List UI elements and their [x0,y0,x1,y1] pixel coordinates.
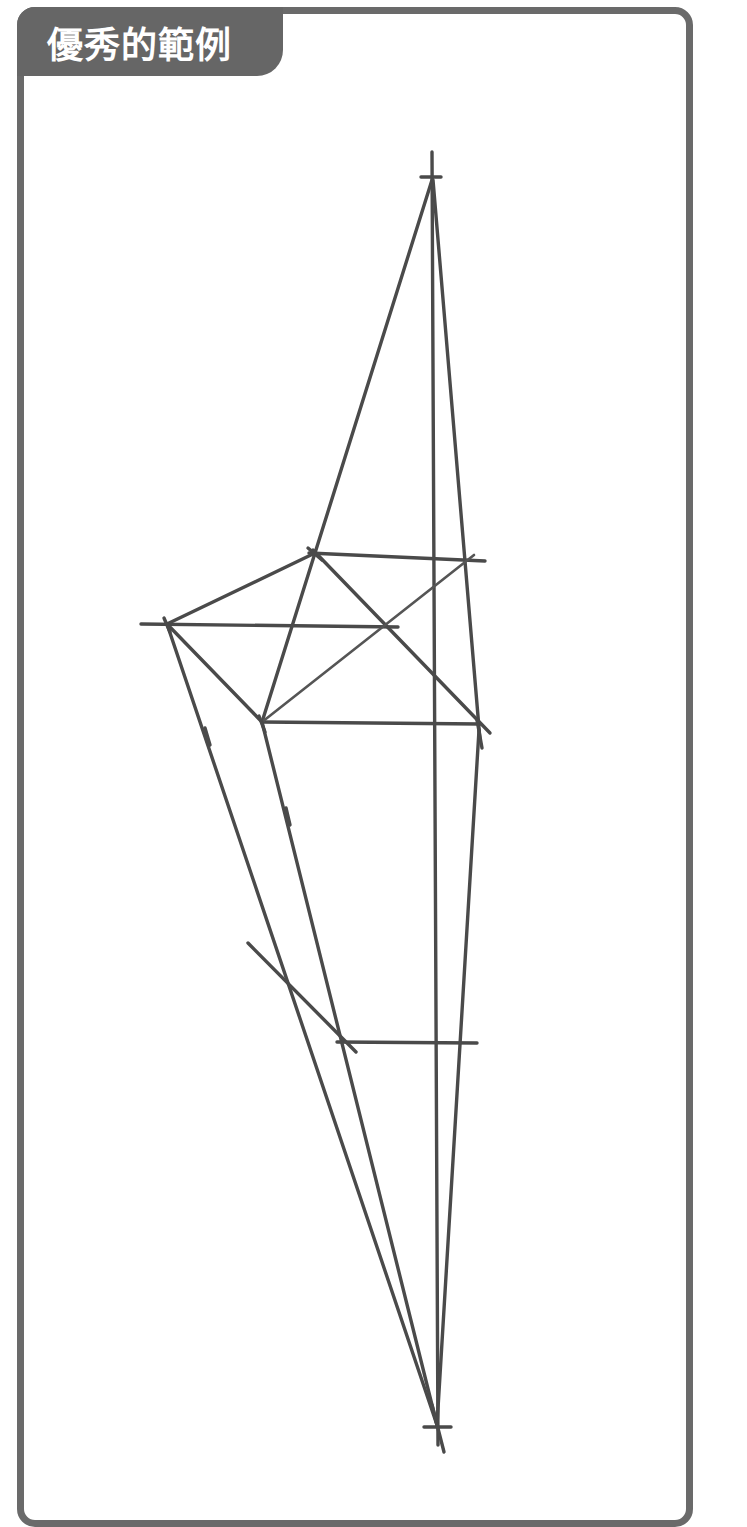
line-p2-to-p3 [167,624,262,722]
horizontal-line-p3 [262,722,480,724]
line-p1-to-p3 [262,553,315,722]
ray-p2-to-bottom [167,624,437,1425]
lower-diagonal-line [248,943,356,1052]
ray-p3-to-bottom [262,722,437,1425]
central-vertical-line [432,152,438,1445]
diagonal-p3-to-upper-right [262,555,474,722]
line-p4-to-bottom [437,730,479,1425]
horizontal-line-p1 [309,553,485,561]
horizontal-line-p2 [141,624,398,627]
lower-horizontal-line [337,1042,477,1043]
line-apex-to-p4 [433,180,480,740]
line-apex-to-p1 [315,180,432,553]
line-p2-to-p1 [167,553,315,624]
diagonal-p1-to-p4 [313,550,490,733]
